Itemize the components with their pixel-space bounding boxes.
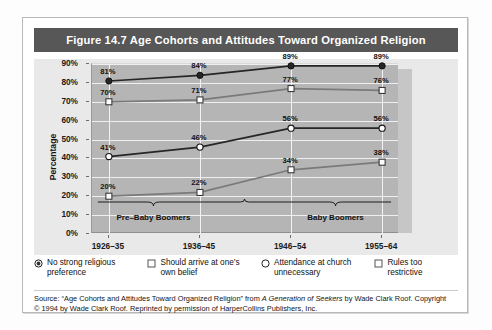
y-axis-tick bbox=[86, 214, 89, 215]
series-line bbox=[109, 128, 382, 156]
x-axis-tick-label: 1926–35 bbox=[92, 241, 124, 251]
open-circle-marker bbox=[261, 259, 270, 268]
data-point-label: 20% bbox=[100, 182, 115, 191]
data-point-marker bbox=[106, 153, 112, 159]
y-axis-tick-label: 80% bbox=[34, 77, 84, 87]
data-point-label: 81% bbox=[100, 67, 115, 76]
y-axis-tick bbox=[86, 120, 89, 121]
series-line bbox=[109, 89, 382, 102]
data-point-label: 56% bbox=[282, 114, 297, 123]
source-book-title: A Generation of Seekers bbox=[262, 294, 343, 303]
y-axis-tick bbox=[86, 157, 89, 158]
data-point-label: 71% bbox=[191, 86, 206, 95]
y-axis-tick-label: 90% bbox=[34, 58, 84, 68]
bracket-label-pre-baby-boomers: Pre–Baby Boomers bbox=[117, 213, 191, 222]
data-point-marker bbox=[106, 78, 112, 84]
data-point-label: 46% bbox=[191, 133, 206, 142]
data-point-marker bbox=[379, 125, 385, 131]
y-axis-tick bbox=[86, 176, 89, 177]
series-line bbox=[109, 162, 382, 196]
y-axis-tick bbox=[86, 82, 89, 83]
figure-title-bar: Figure 14.7 Age Cohorts and Attitudes To… bbox=[34, 28, 458, 52]
source-line-1: Source: “Age Cohorts and Attitudes Towar… bbox=[34, 294, 458, 304]
data-point-marker bbox=[379, 63, 385, 69]
data-point-marker bbox=[197, 189, 203, 195]
legend-item[interactable]: No strong religious preference bbox=[34, 258, 130, 286]
data-point-marker bbox=[197, 97, 203, 103]
bracket-label-baby-boomers: Baby Boomers bbox=[307, 213, 363, 222]
data-point-marker bbox=[379, 87, 385, 93]
data-point-label: 70% bbox=[100, 88, 115, 97]
x-axis-tick bbox=[199, 235, 200, 238]
data-point-label: 89% bbox=[374, 52, 389, 61]
legend-item-label: No strong religious preference bbox=[47, 258, 130, 278]
figure-card: Figure 14.7 Age Cohorts and Attitudes To… bbox=[22, 17, 468, 313]
y-axis-tick bbox=[86, 233, 89, 234]
data-point-label: 77% bbox=[282, 75, 297, 84]
filled-dot-circle-marker bbox=[34, 259, 43, 268]
data-point-marker bbox=[288, 86, 294, 92]
data-point-label: 56% bbox=[374, 114, 389, 123]
data-point-label: 84% bbox=[191, 61, 206, 70]
x-axis-tick bbox=[108, 235, 109, 238]
y-axis-tick-label: 20% bbox=[34, 190, 84, 200]
data-point-label: 76% bbox=[374, 76, 389, 85]
y-axis-tick-label: 60% bbox=[34, 115, 84, 125]
legend-item[interactable]: Rules too restrictive bbox=[374, 258, 458, 286]
open-square-marker bbox=[374, 259, 383, 268]
y-axis-tick bbox=[86, 139, 89, 140]
data-point-label: 22% bbox=[191, 178, 206, 187]
x-axis-tick-label: 1936–45 bbox=[183, 241, 215, 251]
bracket-pre-baby-boomers bbox=[98, 199, 245, 206]
series-line bbox=[109, 66, 382, 81]
data-point-marker bbox=[288, 167, 294, 173]
open-square-marker bbox=[147, 259, 156, 268]
y-axis-tick-label: 10% bbox=[34, 209, 84, 219]
x-axis-tick-label: 1946–54 bbox=[274, 241, 306, 251]
page-title: Figure 14.7 Age Cohorts and Attitudes To… bbox=[66, 34, 426, 46]
y-axis-tick-label: 70% bbox=[34, 96, 84, 106]
data-point-label: 34% bbox=[282, 156, 297, 165]
legend-item-label: Rules too restrictive bbox=[387, 258, 458, 278]
legend-item[interactable]: Attendance at church unnecessary bbox=[261, 258, 357, 286]
legend-item-label: Should arrive at one’s own belief bbox=[160, 258, 243, 278]
y-axis-tick bbox=[86, 195, 89, 196]
source-line-2: © 1994 by Wade Clark Roof. Reprinted by … bbox=[34, 304, 458, 314]
chart-area: Percentage 90%80%70%60%50%40%30%20%10%0%… bbox=[34, 59, 458, 255]
x-axis-tick-label: 1955–64 bbox=[365, 241, 397, 251]
bracket-baby-boomers bbox=[245, 199, 392, 206]
figure-container: Figure 14.7 Age Cohorts and Attitudes To… bbox=[0, 0, 492, 330]
data-point-label: 41% bbox=[100, 143, 115, 152]
data-point-label: 38% bbox=[374, 148, 389, 157]
legend-item[interactable]: Should arrive at one’s own belief bbox=[147, 258, 243, 286]
chart-legend: No strong religious preferenceShould arr… bbox=[34, 258, 458, 286]
x-axis-tick bbox=[381, 235, 382, 238]
y-axis-tick-label: 50% bbox=[34, 134, 84, 144]
data-point-marker bbox=[288, 63, 294, 69]
data-point-marker bbox=[379, 159, 385, 165]
source-text-b: by Wade Clark Roof. Copyright bbox=[343, 294, 447, 303]
source-note: Source: “Age Cohorts and Attitudes Towar… bbox=[34, 290, 458, 315]
data-point-marker bbox=[106, 99, 112, 105]
source-text-a: Source: “Age Cohorts and Attitudes Towar… bbox=[34, 294, 262, 303]
data-point-marker bbox=[197, 144, 203, 150]
x-axis-tick bbox=[290, 235, 291, 238]
data-point-marker bbox=[197, 72, 203, 78]
y-axis-tick bbox=[86, 101, 89, 102]
y-axis-tick-label: 30% bbox=[34, 171, 84, 181]
y-axis-tick bbox=[86, 63, 89, 64]
y-axis-tick-label: 40% bbox=[34, 152, 84, 162]
legend-item-label: Attendance at church unnecessary bbox=[274, 258, 357, 278]
data-point-marker bbox=[288, 125, 294, 131]
data-point-label: 89% bbox=[282, 52, 297, 61]
y-axis-tick-label: 0% bbox=[34, 228, 84, 238]
